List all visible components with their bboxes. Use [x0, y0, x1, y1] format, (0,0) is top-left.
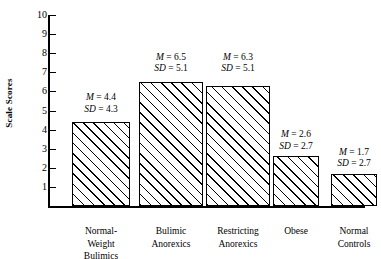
equals-sign: =	[233, 52, 238, 62]
annotation-restricting-anorexics: M = 6.3 SD = 5.1	[193, 52, 283, 75]
equals-sign: =	[98, 104, 103, 114]
y-tick-9: 9	[50, 34, 56, 35]
y-tick-label-6: 6	[42, 84, 47, 97]
sd-label: SD	[84, 104, 96, 114]
category-line: Controls	[309, 238, 381, 251]
sd-value: 4.3	[106, 104, 118, 114]
category-line: Normal	[309, 225, 381, 238]
equals-sign: =	[349, 147, 354, 157]
annotation-normal-weight-bulimics: M = 4.4 SD = 4.3	[56, 92, 146, 115]
annotation-mean-line: M = 2.6	[251, 129, 341, 141]
annotation-mean-line: M = 6.3	[193, 52, 283, 64]
y-tick-10: 10	[50, 15, 56, 16]
equals-sign: =	[291, 129, 296, 139]
bar-bulimic-anorexics	[139, 82, 203, 206]
y-tick-label-1: 1	[42, 180, 47, 193]
annotation-normal-controls: M = 1.7 SD = 2.7	[309, 147, 381, 170]
y-tick-label-4: 4	[42, 123, 47, 136]
y-tick-7: 7	[50, 72, 56, 73]
bar-normal-controls	[331, 174, 377, 207]
y-tick-label-8: 8	[42, 46, 47, 59]
sd-label: SD	[154, 63, 166, 73]
y-axis-title-text: Scale Scores	[4, 78, 14, 127]
equals-sign: =	[235, 63, 240, 73]
mean-label: M	[86, 92, 94, 102]
y-tick-label-9: 9	[42, 27, 47, 40]
y-tick-label-2: 2	[42, 161, 47, 174]
annotation-mean-line: M = 4.4	[56, 92, 146, 104]
equals-sign: =	[293, 141, 298, 151]
category-line: Bulimics	[56, 250, 146, 259]
mean-label: M	[156, 52, 164, 62]
sd-value: 2.7	[359, 158, 371, 168]
mean-label: M	[339, 147, 347, 157]
y-tick-label-7: 7	[42, 65, 47, 78]
sd-label: SD	[337, 158, 349, 168]
annotation-sd-line: SD = 4.3	[56, 104, 146, 116]
y-tick-2: 2	[50, 168, 56, 169]
equals-sign: =	[168, 63, 173, 73]
equals-sign: =	[351, 158, 356, 168]
mean-label: M	[223, 52, 231, 62]
y-tick-label-10: 10	[37, 8, 47, 21]
mean-value: 6.5	[174, 52, 186, 62]
mean-value: 1.7	[357, 147, 369, 157]
mean-value: 2.6	[299, 129, 311, 139]
annotation-sd-line: SD = 5.1	[193, 63, 283, 75]
y-tick-4: 4	[50, 130, 56, 131]
sd-value: 5.1	[243, 63, 255, 73]
equals-sign: =	[166, 52, 171, 62]
y-tick-8: 8	[50, 53, 56, 54]
sd-label: SD	[279, 141, 291, 151]
y-tick-1: 1	[50, 187, 56, 188]
annotation-sd-line: SD = 2.7	[309, 158, 381, 170]
category-line: Anorexics	[193, 238, 283, 251]
bar-normal-weight-bulimics	[72, 122, 130, 206]
sd-value: 5.1	[176, 63, 188, 73]
sd-label: SD	[221, 63, 233, 73]
y-axis-title: Scale Scores	[0, 0, 18, 205]
y-tick-label-5: 5	[42, 104, 47, 117]
y-tick-label-3: 3	[42, 142, 47, 155]
mean-label: M	[281, 129, 289, 139]
y-tick-3: 3	[50, 149, 56, 150]
x-category-label-normal-controls: Normal Controls	[309, 225, 381, 250]
annotation-mean-line: M = 1.7	[309, 147, 381, 159]
plot-area: 1 2 3 4 5 6 7 8 9 10	[48, 15, 365, 206]
mean-value: 6.3	[241, 52, 253, 62]
x-axis-line	[48, 206, 365, 208]
mean-value: 4.4	[104, 92, 116, 102]
equals-sign: =	[96, 92, 101, 102]
